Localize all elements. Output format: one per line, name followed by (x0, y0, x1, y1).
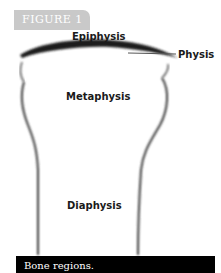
bone-left-edge (22, 82, 38, 255)
physis-leader-line (128, 53, 176, 54)
label-metaphysis: Metaphysis (66, 91, 130, 102)
label-epiphysis: Epiphysis (72, 31, 126, 42)
epiphysis-cap (20, 40, 178, 58)
label-diaphysis: Diaphysis (67, 200, 122, 211)
label-physis: Physis (178, 49, 214, 60)
figure-caption: Bone regions. (16, 256, 215, 273)
bone-right-edge (138, 78, 167, 255)
